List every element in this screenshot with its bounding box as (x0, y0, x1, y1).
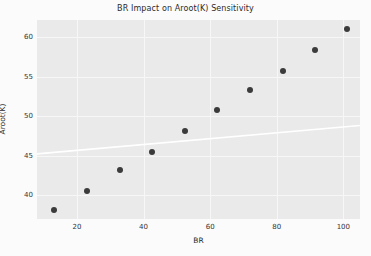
data-point (312, 47, 318, 53)
y-tick-label: 40 (5, 191, 33, 199)
y-tick-label: 55 (5, 73, 33, 81)
gridline-vertical (77, 20, 78, 219)
data-point (51, 207, 57, 213)
gridline-horizontal (37, 77, 360, 78)
x-axis-title: BR (37, 236, 360, 245)
chart-figure: BR Impact on Aroot(K) Sensitivity 404550… (0, 0, 371, 256)
x-tick-label: 40 (129, 223, 159, 231)
gridline-horizontal (37, 195, 360, 196)
y-axis-title-text: Aroot(K) (0, 79, 7, 159)
data-point (280, 68, 286, 74)
gridline-vertical (144, 20, 145, 219)
gridline-vertical (277, 20, 278, 219)
y-tick-label: 45 (5, 152, 33, 160)
data-point (247, 87, 253, 93)
data-point (344, 26, 350, 32)
chart-title: BR Impact on Aroot(K) Sensitivity (0, 4, 371, 13)
data-point (117, 167, 123, 173)
data-point (214, 107, 220, 113)
gridline-horizontal (37, 156, 360, 157)
x-tick-label: 20 (62, 223, 92, 231)
gridline-vertical (210, 20, 211, 219)
gridline-horizontal (37, 116, 360, 117)
plot-area (37, 20, 360, 219)
x-tick-label: 60 (195, 223, 225, 231)
gridline-horizontal (37, 37, 360, 38)
data-point (149, 149, 155, 155)
gridline-vertical (343, 20, 344, 219)
x-tick-label: 100 (328, 223, 358, 231)
data-point (84, 188, 90, 194)
data-point (182, 128, 188, 134)
y-tick-label: 50 (5, 112, 33, 120)
y-tick-label: 60 (5, 33, 33, 41)
x-tick-label: 80 (262, 223, 292, 231)
